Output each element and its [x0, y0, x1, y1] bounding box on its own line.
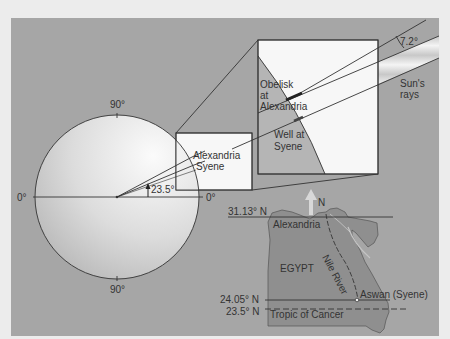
map-north-label: N [318, 197, 325, 208]
obelisk-label-1: Obelisk [260, 79, 294, 90]
obelisk-label-2: at [260, 90, 269, 101]
lat-label-alexandria: 31.13° N [228, 206, 267, 217]
globe-city-syene: Syene [196, 161, 225, 172]
eratosthenes-diagram: 90° 90° 0° 0° 23.5° Alexandria Syene Obe… [0, 0, 450, 339]
map-city-aswan: Aswan (Syene) [360, 289, 428, 300]
well-label-2: Syene [274, 141, 303, 152]
aswan-marker [355, 298, 359, 302]
obelisk-label-3: Alexandria [260, 101, 308, 112]
sun-angle-label: 7.2° [400, 36, 418, 47]
lat-label-aswan: 24.05° N [220, 294, 259, 305]
map-country-label: EGYPT [280, 263, 314, 274]
globe-label-0-right: 0° [206, 192, 216, 203]
globe-label-90-bottom: 90° [110, 284, 125, 295]
lat-label-tropic: 23.5° N [226, 306, 259, 317]
globe-angle-label: 23.5° [151, 184, 174, 195]
tropic-of-cancer-label: Tropic of Cancer [270, 309, 344, 320]
well-label-1: Well at [274, 129, 305, 140]
globe-city-alexandria: Alexandria [193, 150, 241, 161]
globe-label-0-left: 0° [17, 192, 27, 203]
map-city-alexandria: Alexandria [273, 219, 321, 230]
sun-rays-label-1: Sun's [400, 78, 425, 89]
sun-rays-label-2: rays [400, 89, 419, 100]
globe-label-90-top: 90° [110, 99, 125, 110]
